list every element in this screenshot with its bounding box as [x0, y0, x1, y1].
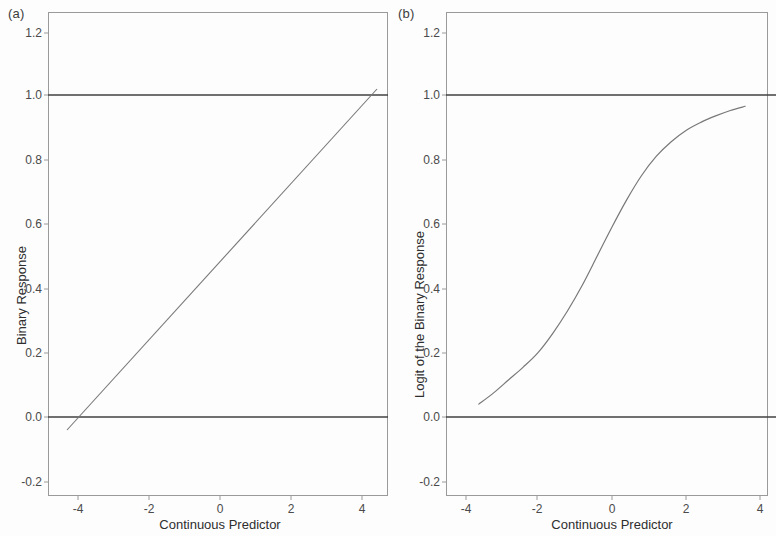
chart-panel-b: (b) 1.2 1.0 0.8 0.6 0.4 0.2 0.0 -0.2 -4 … [392, 0, 776, 536]
fitted-logistic-curve-b [479, 106, 745, 404]
x-tick-marks-a [78, 496, 362, 500]
chart-panel-a: (a) 1.2 1.0 0.8 0.6 0.4 0.2 0.0 -0.2 -4 … [0, 0, 392, 536]
fitted-linear-line-a [67, 89, 377, 430]
y-tick-marks-b [442, 33, 446, 482]
plot-lines-b [392, 0, 776, 536]
plot-lines-a [0, 0, 392, 536]
figure-canvas: (a) 1.2 1.0 0.8 0.6 0.4 0.2 0.0 -0.2 -4 … [0, 0, 776, 536]
y-tick-marks-a [44, 33, 48, 482]
x-tick-marks-b [466, 496, 760, 500]
